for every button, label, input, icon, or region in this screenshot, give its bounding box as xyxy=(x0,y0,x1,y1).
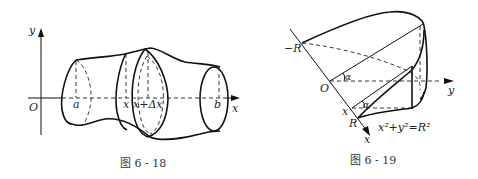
caption-6-19: 图 6 - 19 xyxy=(350,154,396,167)
label-y: y xyxy=(447,84,455,97)
label-x-axis: x xyxy=(364,133,371,146)
label-x-plus-dx: x+Δx xyxy=(133,98,163,111)
left-end-hidden xyxy=(76,60,91,124)
y-axis-arrow-icon xyxy=(38,28,44,37)
label-a: a xyxy=(73,98,80,111)
figure-6-18: y O a x x+Δx b x 图 6 - 18 xyxy=(28,24,240,170)
label-y: y xyxy=(28,24,36,37)
x-axis-arrow-icon xyxy=(231,95,240,101)
label-origin: O xyxy=(29,101,38,114)
top-curve xyxy=(302,12,424,43)
section-hypotenuse xyxy=(352,66,412,108)
caption-6-18: 图 6 - 18 xyxy=(120,157,166,170)
label-origin: O xyxy=(320,82,329,95)
left-end-cap xyxy=(62,60,76,124)
label-alpha-top: α xyxy=(345,72,351,82)
figure-6-19: −R O y α α x R x x²+y²=R² 图 6 - 19 xyxy=(284,12,455,167)
figure-canvas: y O a x x+Δx b x 图 6 - 18 xyxy=(0,0,478,179)
label-x-axis: x xyxy=(232,102,239,115)
x-axis-slanted xyxy=(290,29,367,131)
label-x: x xyxy=(123,98,130,111)
label-neg-r: −R xyxy=(284,42,302,55)
label-b: b xyxy=(214,98,221,111)
label-equation: x²+y²=R² xyxy=(378,121,430,134)
label-r: R xyxy=(348,117,357,130)
label-x-point: x xyxy=(342,105,349,118)
diagrams: y O a x x+Δx b x 图 6 - 18 xyxy=(0,0,478,179)
label-alpha-bottom: α xyxy=(363,100,369,110)
slice-dx-front xyxy=(132,49,148,137)
slice-x-front xyxy=(116,53,127,130)
